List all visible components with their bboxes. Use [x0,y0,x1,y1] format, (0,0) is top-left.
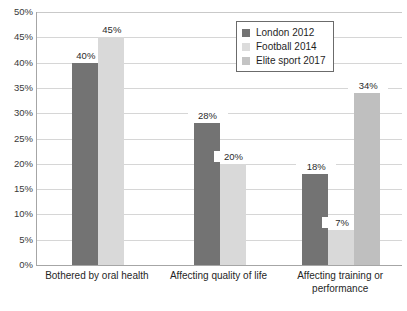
bar [72,63,98,265]
legend-item: Football 2014 [242,40,326,53]
legend-item-label: Football 2014 [256,41,317,53]
y-axis-tick-label: 30% [3,108,33,118]
x-axis: Bothered by oral healthAffecting quality… [36,269,401,309]
x-axis-category-label-line: Affecting training or [279,269,401,282]
y-axis-tick-label: 0% [3,260,33,270]
x-axis-category-label-line: Bothered by oral health [36,269,158,282]
y-axis-tick-label: 10% [3,209,33,219]
y-axis-tick-label: 5% [3,235,33,245]
plot-area: 40%28%18%45%20%7%34% [36,12,402,266]
legend-item: Elite sport 2017 [242,54,326,67]
bar [220,164,246,265]
bar [328,230,354,265]
legend-swatch-icon [242,57,250,65]
y-axis-tick-label: 45% [3,32,33,42]
gridline [37,37,402,38]
x-axis-category-label-line: Affecting quality of life [158,269,280,282]
legend-item-label: London 2012 [256,27,314,39]
y-axis-tick-label: 40% [3,58,33,68]
y-axis-tick-label: 50% [3,7,33,17]
x-axis-category-label: Affecting training orperformance [279,269,401,295]
bar [98,37,124,265]
bar-chart: 50%45%40%35%30%25%20%15%10%5%0% 40%28%18… [0,0,407,311]
y-axis-tick-label: 20% [3,159,33,169]
legend-item-label: Elite sport 2017 [256,55,326,67]
chart-legend: London 2012Football 2014Elite sport 2017 [236,21,334,72]
x-axis-category-label: Affecting quality of life [158,269,280,282]
legend-swatch-icon [242,43,250,51]
y-axis-tick-label: 25% [3,134,33,144]
bar [354,93,380,265]
bar-value-label: 28% [188,110,228,121]
gridline [37,12,402,13]
x-axis-category-label-line: performance [279,282,401,295]
y-axis: 50%45%40%35%30%25%20%15%10%5%0% [0,0,33,311]
x-axis-category-label: Bothered by oral health [36,269,158,282]
bar-value-label: 18% [296,161,336,172]
bar-value-label: 34% [348,80,388,91]
bar [194,123,220,265]
y-axis-tick-label: 15% [3,184,33,194]
y-axis-tick-label: 35% [3,83,33,93]
bar-value-label: 20% [214,151,254,162]
legend-item: London 2012 [242,26,326,39]
legend-swatch-icon [242,29,250,37]
bar-value-label: 45% [92,24,132,35]
